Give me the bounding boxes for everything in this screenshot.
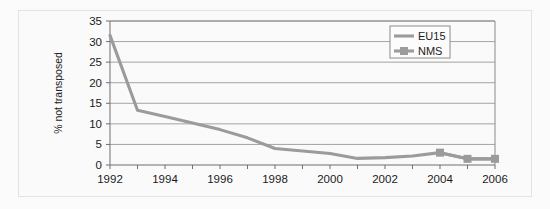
x-axis-ticks (110, 165, 495, 169)
y-tick-label-15: 15 (89, 97, 102, 109)
chart-svg: 05101520253035 1992199419961998200020022… (0, 0, 550, 209)
x-tick-label-1994: 1994 (152, 173, 178, 185)
chart-legend: EU15NMS (390, 26, 450, 58)
y-axis-ticks: 05101520253035 (89, 15, 110, 171)
y-tick-label-10: 10 (89, 118, 102, 130)
chart-figure: 05101520253035 1992199419961998200020022… (0, 0, 550, 209)
legend-marker-nms (400, 47, 408, 55)
series-marker-nms-2004 (436, 149, 444, 157)
x-axis-tick-labels: 19921994199619982000200220042006 (97, 173, 508, 185)
y-tick-label-35: 35 (89, 15, 102, 27)
y-tick-label-30: 30 (89, 36, 102, 48)
x-tick-label-2006: 2006 (482, 173, 508, 185)
x-tick-label-2002: 2002 (372, 173, 398, 185)
series-marker-nms-2005 (464, 155, 472, 163)
y-tick-label-0: 0 (96, 159, 102, 171)
y-axis-title: % not transposed (52, 52, 64, 134)
x-tick-label-2000: 2000 (317, 173, 343, 185)
x-tick-label-1992: 1992 (97, 173, 123, 185)
y-tick-label-25: 25 (89, 56, 102, 68)
y-tick-label-5: 5 (96, 138, 102, 150)
series-marker-nms-2006 (491, 155, 499, 163)
legend-label-nms: NMS (418, 45, 442, 57)
x-tick-label-2004: 2004 (427, 173, 453, 185)
line-chart: 05101520253035 1992199419961998200020022… (0, 0, 550, 209)
x-tick-label-1996: 1996 (207, 173, 233, 185)
legend-label-eu15: EU15 (418, 30, 446, 42)
x-tick-label-1998: 1998 (262, 173, 288, 185)
y-tick-label-20: 20 (89, 77, 102, 89)
